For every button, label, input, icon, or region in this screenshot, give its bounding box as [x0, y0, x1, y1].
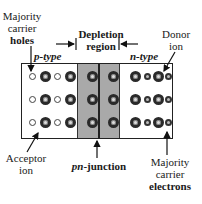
majority-carrier-electrons-label: Majority carrier electrons	[145, 156, 195, 192]
junction-suffix: -junction	[83, 160, 126, 172]
acceptor-ion-label: Acceptor ion	[3, 152, 49, 176]
label-line: carrier	[145, 168, 195, 180]
label-line: Acceptor	[3, 152, 49, 164]
label-line: Majority	[145, 156, 195, 168]
junction-prefix: pn	[72, 160, 84, 172]
label-line: electrons	[145, 180, 195, 192]
label-line: ion	[3, 164, 49, 176]
pn-junction-label: pn-junction	[70, 160, 128, 172]
